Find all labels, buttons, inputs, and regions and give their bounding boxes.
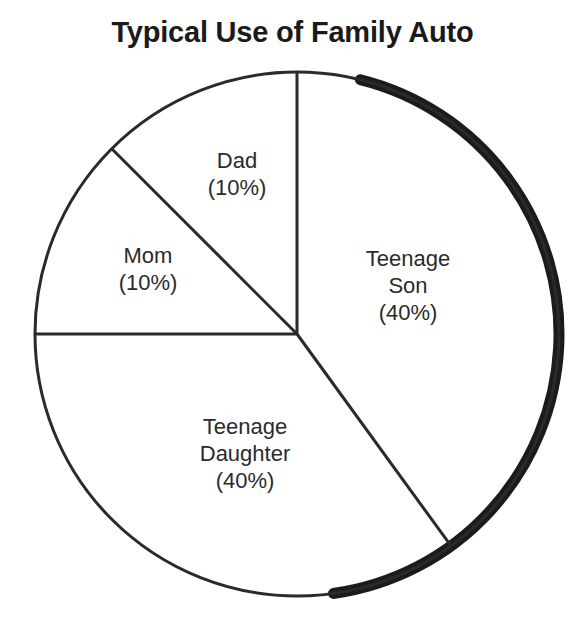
slice-label-dad: Dad(10%): [208, 147, 267, 201]
slice-label-teenage-son: TeenageSon(40%): [366, 245, 450, 326]
slice-label-line: (10%): [208, 174, 267, 201]
slice-label-line: Mom: [119, 242, 178, 269]
slice-label-line: (40%): [200, 467, 291, 494]
pie-body-group: [35, 72, 559, 596]
pie-chart-graphic: [0, 0, 585, 636]
slice-label-line: Son: [366, 272, 450, 299]
slice-label-line: Teenage: [366, 245, 450, 272]
slice-label-teenage-daughter: TeenageDaughter(40%): [200, 413, 291, 494]
slice-label-mom: Mom(10%): [119, 242, 178, 296]
pie-chart-figure: Typical Use of Family Auto TeenageSon(40…: [0, 0, 585, 636]
slice-label-line: Daughter: [200, 440, 291, 467]
slice-label-line: (10%): [119, 269, 178, 296]
slice-label-line: Teenage: [200, 413, 291, 440]
slice-label-line: (40%): [366, 299, 450, 326]
slice-label-line: Dad: [208, 147, 267, 174]
